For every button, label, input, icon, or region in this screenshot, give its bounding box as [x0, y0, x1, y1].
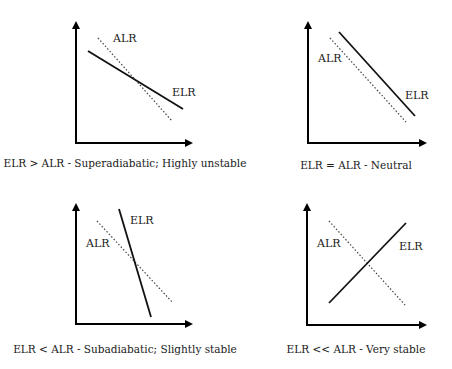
alr-label: ALR: [112, 32, 137, 45]
elr-line: [88, 51, 183, 109]
elr-label: ELR: [130, 214, 154, 227]
elr-line: [339, 32, 415, 116]
alr-label: ALR: [317, 52, 342, 65]
panel-caption: ELR > ALR - Superadiabatic; Highly unsta…: [4, 157, 247, 169]
alr-label: ALR: [85, 237, 110, 250]
panel-caption: ELR = ALR - Neutral: [300, 159, 412, 171]
panel-neutral: ALR ELR ELR = ALR - Neutral: [300, 24, 429, 171]
panel-superadiabatic: ALR ELR ELR > ALR - Superadiabatic; High…: [4, 24, 247, 169]
elr-label: ELR: [172, 86, 196, 99]
panel-very-stable: ALR ELR ELR << ALR - Very stable: [287, 206, 426, 355]
panel-caption: ELR < ALR - Subadiabatic; Slightly stabl…: [13, 343, 237, 355]
panel-subadiabatic: ALR ELR ELR < ALR - Subadiabatic; Slight…: [13, 206, 237, 355]
lapse-rate-diagram: ALR ELR ELR > ALR - Superadiabatic; High…: [0, 0, 452, 369]
alr-line: [330, 38, 406, 122]
panel-caption: ELR << ALR - Very stable: [287, 343, 426, 355]
elr-label: ELR: [405, 89, 429, 102]
elr-line: [329, 223, 406, 303]
alr-label: ALR: [316, 237, 341, 250]
elr-label: ELR: [399, 240, 423, 253]
